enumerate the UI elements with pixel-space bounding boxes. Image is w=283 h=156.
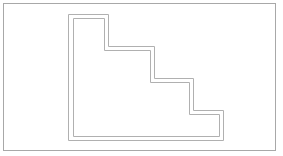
staircase-inner-outline	[74, 19, 220, 137]
diagram-canvas	[0, 0, 283, 156]
outer-frame	[4, 4, 276, 151]
staircase-outer-outline	[69, 15, 224, 141]
